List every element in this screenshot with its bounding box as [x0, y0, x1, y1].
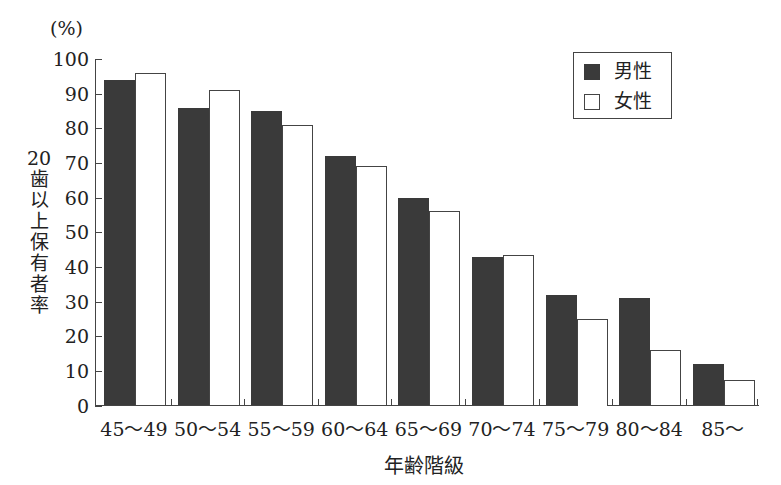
y-tick-label: 70: [49, 153, 89, 173]
y-tick-mark: [95, 94, 102, 95]
x-tick-label: 45～49: [97, 414, 171, 441]
y-tick-mark: [95, 232, 102, 233]
x-tick-label: 55～59: [244, 414, 318, 441]
x-axis-title: 年齢階級: [384, 450, 464, 479]
y-tick-label: 40: [49, 257, 89, 277]
x-tick-mark: [244, 399, 245, 405]
bar-male: [178, 108, 209, 406]
x-tick-label: 75～79: [539, 414, 613, 441]
x-tick-label: 65～69: [391, 414, 465, 441]
bar-female: [650, 350, 681, 405]
y-axis-unit: (%): [50, 17, 83, 39]
bar-female: [135, 73, 166, 406]
bar-female: [577, 319, 608, 406]
y-tick-mark: [95, 267, 102, 268]
x-tick-label: 85～: [686, 414, 760, 441]
bar-male: [325, 156, 356, 405]
y-tick-mark: [95, 128, 102, 129]
y-tick-label: 10: [49, 361, 89, 381]
bar-female: [209, 90, 240, 405]
y-tick-label: 20: [49, 326, 89, 346]
legend-label-male: 男性: [614, 61, 652, 81]
x-tick-mark: [686, 399, 687, 405]
x-tick-mark: [465, 399, 466, 405]
bar-male: [398, 198, 429, 406]
y-tick-label: 30: [49, 292, 89, 312]
bar-female: [429, 211, 460, 405]
y-tick-mark: [95, 59, 102, 60]
y-tick-mark: [95, 302, 102, 303]
y-tick-label: 100: [49, 49, 89, 69]
bar-male: [619, 298, 650, 405]
y-tick-label: 50: [49, 222, 89, 242]
x-tick-label: 60～64: [318, 414, 392, 441]
legend: 男性 女性: [573, 52, 672, 119]
x-tick-label: 70～74: [465, 414, 539, 441]
x-tick-mark: [171, 399, 172, 405]
y-tick-mark: [95, 163, 102, 164]
y-tick-mark: [95, 198, 102, 199]
legend-swatch-female: [584, 94, 600, 110]
x-tick-mark: [391, 399, 392, 405]
x-tick-label: 80～84: [612, 414, 686, 441]
y-tick-mark: [95, 336, 102, 337]
bar-male: [472, 257, 503, 406]
x-tick-label: 50～54: [171, 414, 245, 441]
y-tick-label: 0: [49, 396, 89, 416]
x-tick-mark: [757, 399, 758, 405]
x-tick-mark: [612, 399, 613, 405]
legend-swatch-male: [584, 64, 600, 80]
y-tick-label: 80: [49, 118, 89, 138]
x-tick-mark: [539, 399, 540, 405]
bar-male: [104, 80, 135, 406]
bar-female: [503, 255, 534, 406]
y-tick-label: 90: [49, 84, 89, 104]
bar-female: [724, 380, 755, 406]
y-tick-mark: [95, 406, 102, 407]
bar-male: [693, 364, 724, 406]
bar-female: [282, 125, 313, 406]
legend-label-female: 女性: [614, 91, 652, 111]
y-tick-mark: [95, 371, 102, 372]
y-tick-label: 60: [49, 188, 89, 208]
x-tick-mark: [318, 399, 319, 405]
bar-male: [546, 295, 577, 406]
bar-male: [251, 111, 282, 406]
bar-female: [356, 166, 387, 405]
